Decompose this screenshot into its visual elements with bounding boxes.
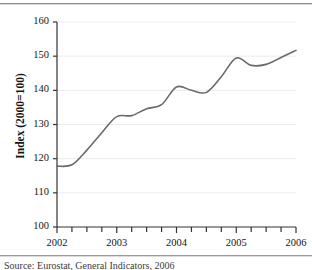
x-axis-tick-label: 2003 (97, 237, 137, 248)
y-axis-tick-label: 130 (23, 118, 49, 129)
y-axis-tick-label: 120 (23, 152, 49, 163)
bottom-divider-rule-shadow (0, 256, 312, 257)
figure-container: Index (2000=100) 100110120130140150160 2… (0, 0, 312, 270)
x-axis-tick-label: 2006 (276, 237, 312, 248)
x-axis-tick-label: 2004 (157, 237, 197, 248)
source-caption: Source: Eurostat, General Indicators, 20… (4, 261, 175, 270)
y-axis-tick-label: 160 (23, 15, 49, 26)
y-axis-tick-label: 110 (23, 186, 49, 197)
y-axis-tick-label: 140 (23, 83, 49, 94)
y-axis-tick-label: 100 (23, 220, 49, 231)
data-line-series-0 (57, 50, 296, 166)
x-axis-tick-label: 2005 (216, 237, 256, 248)
x-axis-tick-label: 2002 (37, 237, 77, 248)
source-caption-clip: Source: Eurostat, General Indicators, 20… (0, 261, 312, 270)
y-axis-tick-label: 150 (23, 49, 49, 60)
